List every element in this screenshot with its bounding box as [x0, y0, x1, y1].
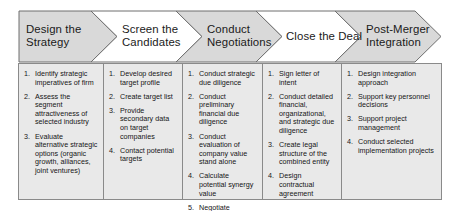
stage-task-table: Identify strategic imperatives of firm A…: [18, 63, 442, 200]
task-item: Conduct evaluation of company value stan…: [188, 133, 257, 167]
task-item: Assess the segment attractiveness of sel…: [24, 93, 98, 127]
task-item: Conduct strategic due diligence: [188, 70, 257, 87]
task-item: Evaluate alternative strategic options (…: [24, 133, 98, 176]
task-column-conduct-negotiations: Conduct strategic due diligence Conduct …: [183, 64, 263, 199]
screenshot-canvas: Design the Strategy Screen the Candidate…: [0, 0, 462, 211]
task-list-design-the-strategy: Identify strategic imperatives of firm A…: [24, 70, 98, 176]
chevron-shapes: [18, 10, 442, 63]
task-list-close-the-deal: Sign letter of intent Conduct detailed f…: [268, 70, 336, 198]
task-item: Conduct selected implementation projects: [347, 138, 436, 155]
task-column-close-the-deal: Sign letter of intent Conduct detailed f…: [263, 64, 342, 199]
task-item: Design integration approach: [347, 70, 436, 87]
task-column-design-the-strategy: Identify strategic imperatives of firm A…: [19, 64, 104, 199]
task-item: Design contractual agreement: [268, 172, 336, 198]
task-list-screen-the-candidates: Develop desired target profile Create ta…: [109, 70, 177, 164]
task-item: Provide secondary data on target compani…: [109, 107, 177, 141]
task-item: Calculate potential synergy value: [188, 172, 257, 198]
task-item: Identify strategic imperatives of firm: [24, 70, 98, 87]
task-list-conduct-negotiations: Conduct strategic due diligence Conduct …: [188, 70, 257, 211]
task-item: Create legal structure of the combined e…: [268, 141, 336, 167]
task-item: Negotiate contractual terms: [188, 204, 257, 211]
stage-header-band: Design the Strategy Screen the Candidate…: [18, 10, 442, 63]
task-list-post-merger-integration: Design integration approach Support key …: [347, 70, 436, 155]
task-item: Create target list: [109, 93, 177, 102]
task-item: Support project management: [347, 115, 436, 132]
ma-process-diagram: Design the Strategy Screen the Candidate…: [18, 10, 442, 200]
task-item: Sign letter of intent: [268, 70, 336, 87]
task-item: Conduct detailed financial, organization…: [268, 93, 336, 136]
task-item: Develop desired target profile: [109, 70, 177, 87]
task-column-screen-the-candidates: Develop desired target profile Create ta…: [104, 64, 183, 199]
task-column-post-merger-integration: Design integration approach Support key …: [342, 64, 441, 199]
task-item: Contact potential targets: [109, 147, 177, 164]
task-item: Support key personnel decisions: [347, 93, 436, 110]
task-item: Conduct preliminary financial due dilige…: [188, 93, 257, 127]
